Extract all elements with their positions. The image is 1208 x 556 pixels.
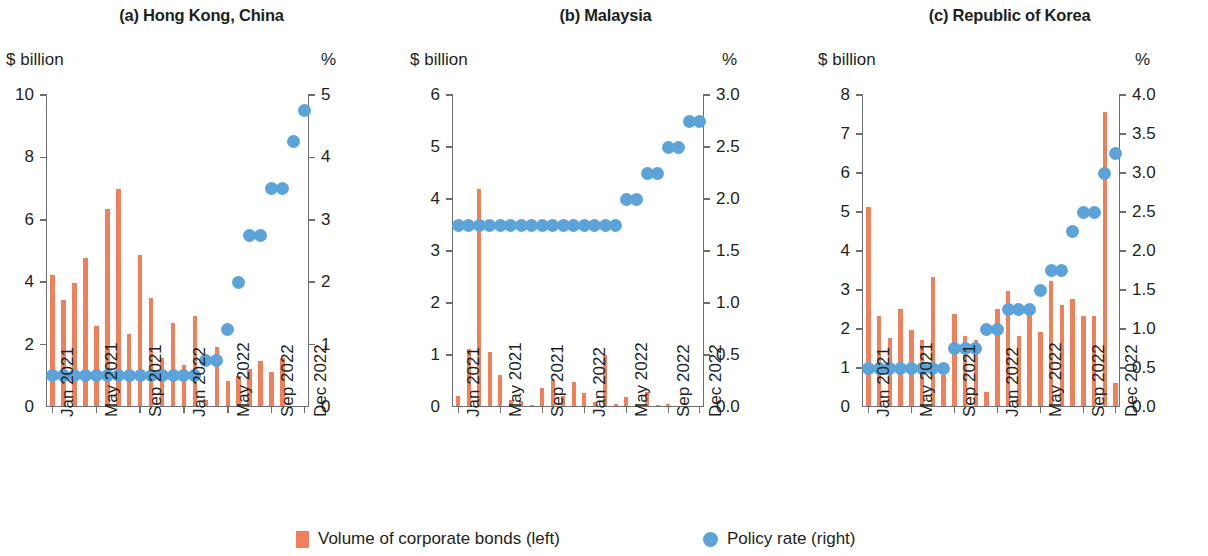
left-axis-tick-label: 4 xyxy=(808,242,850,259)
bar xyxy=(269,372,274,406)
data-point xyxy=(672,141,685,154)
left-axis-tick xyxy=(446,94,453,96)
x-axis-tick xyxy=(584,406,585,413)
right-axis-unit-label: % xyxy=(321,50,336,70)
chart-panel-malaysia: (b) Malaysia $ billion % 01234560.00.51.… xyxy=(404,0,807,510)
x-axis-tick-label: Jan 2022 xyxy=(1004,347,1021,417)
left-axis-tick xyxy=(856,250,863,252)
x-axis-tick-label: Jan 2022 xyxy=(191,347,208,417)
bar xyxy=(898,309,903,407)
x-axis-tick xyxy=(626,406,627,413)
right-axis-tick xyxy=(703,146,710,148)
left-axis-tick-label: 6 xyxy=(0,211,34,228)
right-axis-tick-label: 1.0 xyxy=(716,294,740,311)
x-axis-tick xyxy=(183,406,184,413)
bar xyxy=(1038,332,1043,406)
right-axis-unit-label: % xyxy=(722,50,737,70)
right-axis-tick xyxy=(1119,289,1126,291)
bar xyxy=(540,388,544,406)
right-axis-tick-label: 2.0 xyxy=(1132,242,1156,259)
x-axis-tick xyxy=(458,406,459,413)
x-axis-tick-label: Sep 2021 xyxy=(147,344,164,417)
left-axis-tick-label: 5 xyxy=(808,203,850,220)
panel-title: (b) Malaysia xyxy=(404,6,807,25)
left-axis-tick-label: 8 xyxy=(0,148,34,165)
bar xyxy=(582,393,586,406)
x-axis-tick xyxy=(271,406,272,413)
left-axis-tick-label: 3 xyxy=(404,242,440,259)
data-point xyxy=(1088,206,1101,219)
data-point xyxy=(298,104,311,117)
x-axis-tick xyxy=(911,406,912,413)
figure-container: (a) Hong Kong, China $ billion % 0246810… xyxy=(0,0,1208,556)
blue-circle-icon xyxy=(703,532,718,547)
right-axis-tick xyxy=(703,94,710,96)
right-axis-tick xyxy=(1119,250,1126,252)
plot-area xyxy=(862,95,1120,407)
bar xyxy=(984,392,989,406)
x-axis-tick-label: Dec 2022 xyxy=(1123,344,1140,417)
left-axis-tick xyxy=(40,157,47,159)
bar xyxy=(456,396,460,406)
bar xyxy=(226,381,231,406)
x-axis-tick-label: May 2022 xyxy=(1047,342,1064,417)
bar xyxy=(258,361,263,406)
right-axis-tick-label: 3.5 xyxy=(1132,125,1156,142)
x-axis-tick-label: Dec 2022 xyxy=(707,344,724,417)
x-axis-tick xyxy=(1083,406,1084,413)
left-axis-tick-label: 2 xyxy=(808,320,850,337)
data-point xyxy=(1098,167,1111,180)
data-point xyxy=(232,276,245,289)
bar xyxy=(94,326,99,406)
data-point xyxy=(991,323,1004,336)
bar xyxy=(488,352,492,406)
data-point xyxy=(1023,303,1036,316)
left-axis-tick-label: 10 xyxy=(0,86,34,103)
data-point xyxy=(937,362,950,375)
right-axis-tick-label: 1.0 xyxy=(1132,320,1156,337)
left-axis-tick-label: 7 xyxy=(808,125,850,142)
bar xyxy=(1070,299,1075,406)
right-axis-tick-label: 4 xyxy=(321,148,330,165)
right-axis-tick-label: 1.5 xyxy=(716,242,740,259)
left-axis-tick xyxy=(446,302,453,304)
x-axis-tick xyxy=(699,406,700,413)
x-axis-tick-label: Jan 2021 xyxy=(59,347,76,417)
bar xyxy=(83,258,88,406)
x-axis-tick xyxy=(542,406,543,413)
legend-label-policy-rate: Policy rate (right) xyxy=(727,529,855,549)
data-point xyxy=(221,323,234,336)
bar xyxy=(1027,305,1032,406)
left-axis-tick-label: 2 xyxy=(404,294,440,311)
right-axis-tick xyxy=(308,281,315,283)
left-axis-tick xyxy=(856,133,863,135)
x-axis-tick xyxy=(500,406,501,413)
data-point xyxy=(276,182,289,195)
right-axis-tick xyxy=(1119,172,1126,174)
right-axis-tick xyxy=(1119,94,1126,96)
left-axis-tick xyxy=(446,146,453,148)
right-axis-tick-label: 1.5 xyxy=(1132,281,1156,298)
left-axis-tick xyxy=(446,198,453,200)
x-axis-tick xyxy=(997,406,998,413)
x-axis-tick xyxy=(52,406,53,413)
chart-legend: Volume of corporate bonds (left) Policy … xyxy=(0,515,1208,556)
legend-label-volume: Volume of corporate bonds (left) xyxy=(318,529,560,549)
data-point xyxy=(254,229,267,242)
left-axis-tick xyxy=(40,344,47,346)
bar xyxy=(572,382,576,406)
x-axis-tick-label: May 2021 xyxy=(507,342,524,417)
right-axis-tick-label: 4.0 xyxy=(1132,86,1156,103)
x-axis-tick-label: Sep 2022 xyxy=(279,344,296,417)
left-axis-tick-label: 0 xyxy=(0,398,34,415)
left-axis-tick-label: 4 xyxy=(404,190,440,207)
x-axis-tick-label: Jan 2021 xyxy=(465,347,482,417)
right-axis-tick xyxy=(308,94,315,96)
plot-area xyxy=(452,95,704,407)
bar xyxy=(138,255,143,406)
right-axis-tick xyxy=(308,157,315,159)
left-axis-tick-label: 3 xyxy=(808,281,850,298)
x-axis-tick-label: Sep 2021 xyxy=(961,344,978,417)
right-axis-tick xyxy=(703,302,710,304)
data-point xyxy=(1055,264,1068,277)
